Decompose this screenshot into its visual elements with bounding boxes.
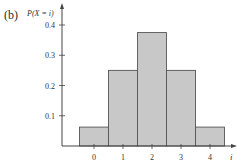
bar-0	[80, 127, 109, 146]
y-tick-label: 0.3	[45, 51, 55, 60]
y-tick-label: 0.1	[45, 112, 55, 121]
bar-3	[167, 70, 196, 146]
bar-2	[138, 33, 167, 146]
bar-chart: 0.10.20.30.401234i	[0, 0, 249, 166]
x-axis-arrow-icon	[231, 144, 237, 148]
bar-4	[196, 127, 225, 146]
x-tick-label: 4	[208, 153, 212, 162]
bar-1	[109, 70, 138, 146]
y-tick-label: 0.2	[45, 82, 55, 91]
x-tick-label: 3	[179, 153, 183, 162]
x-tick-label: 2	[150, 153, 154, 162]
y-axis-arrow-icon	[60, 3, 64, 9]
x-axis-label: i	[230, 152, 233, 162]
y-tick-label: 0.4	[45, 21, 55, 30]
x-tick-label: 1	[121, 153, 125, 162]
x-tick-label: 0	[92, 153, 96, 162]
